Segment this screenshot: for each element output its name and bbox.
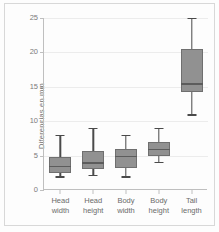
upper-whisker (92, 128, 93, 151)
upper-whisker (60, 135, 61, 157)
upper-whisker (125, 135, 126, 149)
upper-whisker-cap (121, 135, 130, 136)
box-plot-body-width: Bodywidth (110, 18, 143, 190)
lower-whisker-cap (154, 162, 163, 163)
x-tick-label: Taillength (171, 196, 213, 216)
upper-whisker-cap (56, 135, 65, 136)
lower-whisker (125, 168, 126, 176)
x-tick-mark (191, 190, 192, 194)
y-tick-label: 0 (34, 186, 38, 194)
upper-whisker-cap (89, 128, 98, 129)
upper-whisker (158, 128, 159, 142)
x-tick-mark (60, 190, 61, 194)
upper-whisker (191, 18, 192, 49)
box-plot-tail-length: Taillength (175, 18, 208, 190)
median-line (181, 83, 203, 84)
iqr-box (49, 157, 71, 173)
x-tick-mark (125, 190, 126, 194)
x-tick-mark (93, 190, 94, 194)
box-plot-body-height: Bodyheight (142, 18, 175, 190)
upper-whisker-cap (154, 128, 163, 129)
y-tick-label: 15 (30, 83, 38, 91)
median-line (49, 166, 71, 167)
x-tick-label-line: Tail (171, 196, 213, 206)
box-plot-head-width: Headwidth (44, 18, 77, 190)
median-line (115, 156, 137, 157)
x-tick-label-line: length (171, 206, 213, 216)
plot-area: 0510152025HeadwidthHeadheightBodywidthBo… (43, 18, 207, 190)
lower-whisker-cap (187, 114, 196, 115)
y-tick-label: 20 (30, 49, 38, 57)
box-plot-head-height: Headheight (77, 18, 110, 190)
iqr-box (115, 149, 137, 168)
median-line (148, 149, 170, 150)
y-tick-label: 25 (30, 14, 38, 22)
x-tick-mark (158, 190, 159, 194)
lower-whisker (191, 92, 192, 115)
median-line (82, 162, 104, 163)
y-tick-label: 5 (34, 152, 38, 160)
upper-whisker-cap (187, 18, 196, 19)
lower-whisker-cap (56, 176, 65, 177)
lower-whisker-cap (89, 175, 98, 176)
y-tick-label: 10 (30, 117, 38, 125)
lower-whisker-cap (121, 176, 130, 177)
iqr-box (82, 151, 104, 170)
y-tick-mark (40, 190, 44, 191)
box-plot-chart: Diferencias en mm 0510152025HeadwidthHea… (0, 0, 219, 232)
iqr-box (181, 49, 203, 92)
